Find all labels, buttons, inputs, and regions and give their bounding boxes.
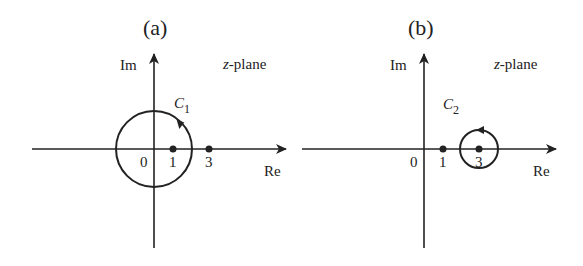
tick-3: 3	[205, 154, 213, 170]
point-1	[170, 146, 177, 153]
re-label: Re	[264, 163, 281, 179]
panel-b: (b) Im Re z-plane C2 0 1 3	[302, 15, 556, 248]
tick-0: 0	[140, 154, 148, 170]
point-3	[476, 146, 483, 153]
re-label: Re	[533, 163, 550, 179]
tick-0: 0	[410, 154, 418, 170]
contour-label: C2	[443, 96, 459, 117]
panel-a: (a) Im Re z-plane C1 0 1 3	[32, 15, 286, 248]
point-3	[206, 146, 213, 153]
im-label: Im	[390, 57, 407, 73]
panel-b-title: (b)	[408, 15, 434, 40]
im-label: Im	[120, 57, 137, 73]
panel-a-title: (a)	[143, 15, 167, 40]
tick-3: 3	[475, 154, 483, 170]
figure: (a) Im Re z-plane C1 0 1 3 (b) Im Re z-p…	[0, 0, 583, 266]
direction-arrow-icon	[476, 126, 484, 134]
tick-1: 1	[439, 154, 447, 170]
point-1	[440, 146, 447, 153]
plane-label: z-plane	[493, 56, 538, 72]
tick-1: 1	[169, 154, 177, 170]
contour-label: C1	[174, 95, 190, 116]
plane-label: z-plane	[222, 56, 267, 72]
